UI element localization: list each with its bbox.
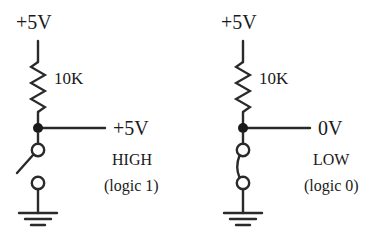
supply-label-right: +5V xyxy=(221,12,257,32)
junction-node-left xyxy=(33,123,43,133)
resistor-symbol-left xyxy=(31,62,45,112)
resistor-value-label-right: 10K xyxy=(259,70,288,87)
switch-lever-closed-right[interactable] xyxy=(237,156,239,178)
output-voltage-label-right: 0V xyxy=(318,118,342,138)
switch-terminal-lower-right[interactable] xyxy=(237,177,249,189)
switch-terminal-upper-right[interactable] xyxy=(237,144,249,156)
logic-state-label-left: HIGH xyxy=(112,152,152,168)
switch-lever-open-left[interactable] xyxy=(17,155,34,174)
output-voltage-label-left: +5V xyxy=(113,118,149,138)
circuit-schematic-canvas xyxy=(0,0,366,235)
circuit-diagram-page: +5V 10K +5V HIGH (logic 1) +5V 10K 0V LO… xyxy=(0,0,366,235)
resistor-symbol-right xyxy=(236,62,250,112)
logic-value-label-right: (logic 0) xyxy=(304,178,359,194)
switch-terminal-lower-left[interactable] xyxy=(32,177,44,189)
logic-state-label-right: LOW xyxy=(313,152,349,168)
junction-node-right xyxy=(238,123,248,133)
logic-value-label-left: (logic 1) xyxy=(104,178,159,194)
resistor-value-label-left: 10K xyxy=(54,70,83,87)
supply-label-left: +5V xyxy=(16,12,52,32)
